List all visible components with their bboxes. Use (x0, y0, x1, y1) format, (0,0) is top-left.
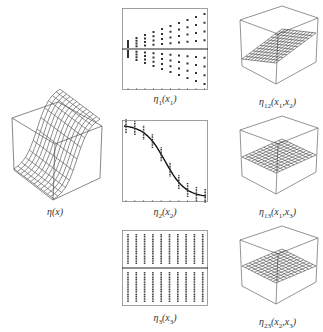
surface-label: η23(x2,x3) (232, 316, 323, 330)
surface-label: η12(x1,x2) (232, 96, 323, 110)
surface-eta-x: η(x) (0, 100, 110, 230)
eta3-label: η3(x3) (122, 312, 208, 326)
surface-plot (232, 110, 323, 205)
panel-eta2: η2(x2) (122, 120, 208, 220)
surface-eta13: η13(x1,x3) (232, 110, 323, 222)
surface-plot (232, 0, 323, 95)
panel-eta3: η3(x3) (122, 230, 208, 330)
surface-label: η13(x1,x3) (232, 206, 323, 220)
surface-eta23: η23(x2,x3) (232, 220, 323, 332)
eta3-plot (122, 230, 208, 306)
surface-plot (232, 220, 323, 315)
eta1-label: η1(x1) (122, 93, 208, 107)
surface-eta12: η12(x1,x2) (232, 0, 323, 112)
surface-eta-x-label: η(x) (0, 206, 110, 217)
eta2-plot (122, 120, 208, 202)
panel-eta1: η1(x1) (122, 8, 208, 108)
eta2-label: η2(x2) (122, 206, 208, 220)
eta1-plot (122, 8, 208, 90)
